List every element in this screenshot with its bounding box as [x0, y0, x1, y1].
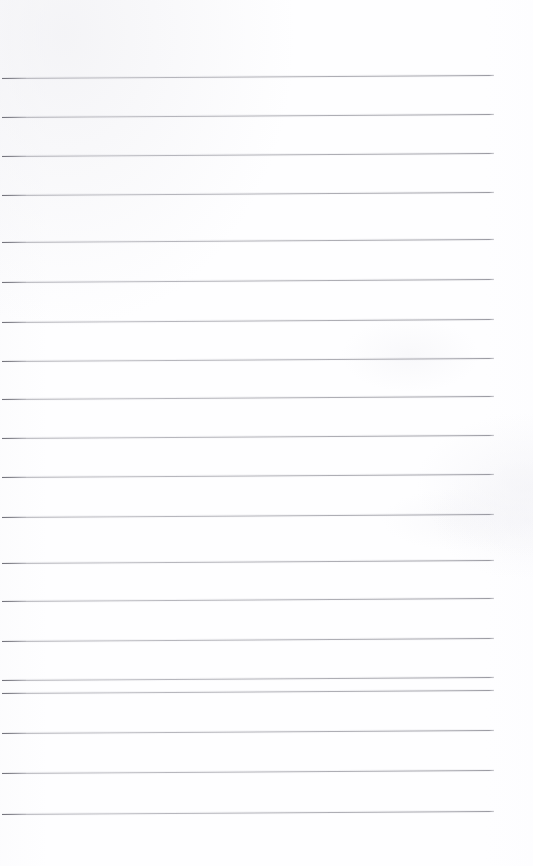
- lined-paper-page: [0, 0, 533, 866]
- page-content-area[interactable]: [2, 78, 494, 818]
